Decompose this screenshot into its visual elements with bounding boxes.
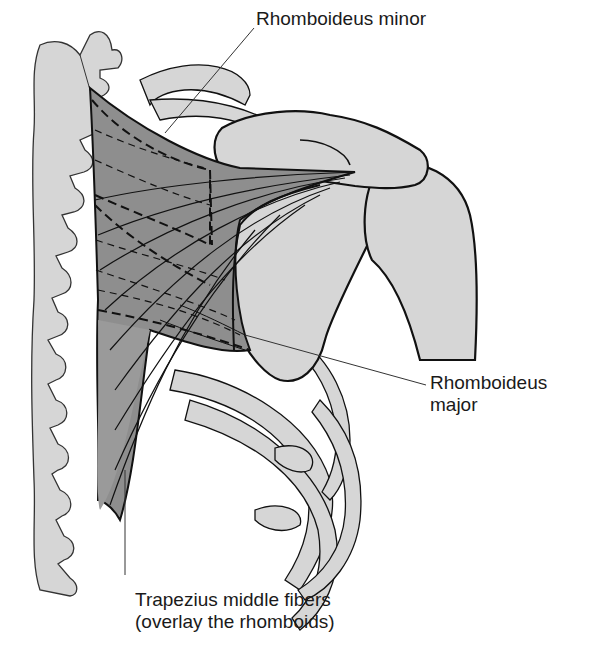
label-rhomboideus-major: Rhomboideus major	[430, 372, 547, 416]
label-rhomboideus-minor: Rhomboideus minor	[256, 8, 426, 30]
label-text-line1: Rhomboideus	[430, 372, 547, 394]
label-trapezius-middle-fibers: Trapezius middle fibers (overlay the rho…	[135, 589, 335, 633]
shoulder-anatomy-illustration	[0, 0, 593, 656]
humerus	[365, 162, 477, 360]
label-text-line2: major	[430, 394, 547, 416]
label-text-line2: (overlay the rhomboids)	[135, 611, 335, 633]
label-text-line1: Trapezius middle fibers	[135, 589, 335, 611]
label-text: Rhomboideus minor	[256, 8, 426, 30]
